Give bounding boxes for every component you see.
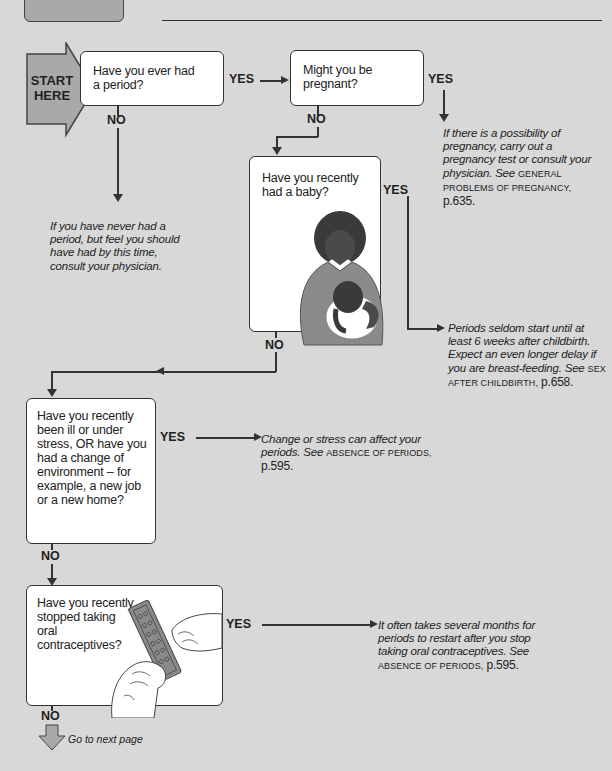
page-reference[interactable]: p.635. — [443, 194, 475, 208]
go-to-next-page-link[interactable]: Go to next page — [68, 733, 143, 745]
question-box-might-be-pregnant: Might you be pregnant? — [290, 50, 424, 106]
question-box-illness-stress: Have you recently been ill or under stre… — [26, 398, 156, 544]
question-text: Have you recently been ill or under stre… — [37, 409, 149, 507]
see-label: See — [303, 446, 323, 458]
q1-no-label: NO — [107, 113, 126, 127]
connector — [260, 80, 282, 82]
q4-no-label: NO — [41, 549, 60, 563]
question-text: Have you recently had a baby? — [262, 171, 362, 199]
cross-reference-link[interactable]: ABSENCE OF PERIODS, — [326, 448, 431, 458]
pill-pack-hands-illustration-icon — [110, 600, 225, 718]
q3-yes-label: YES — [383, 183, 408, 197]
connector — [262, 624, 372, 626]
connector — [443, 90, 445, 116]
start-label-line1: START — [30, 73, 74, 88]
arrow-down-icon — [113, 194, 123, 202]
answer-text: If you have never had a period, but feel… — [50, 220, 180, 272]
answer-never-had-period: If you have never had a period, but feel… — [50, 220, 180, 273]
connector — [276, 136, 318, 138]
see-label: See — [565, 362, 585, 374]
header-rule — [162, 20, 602, 21]
next-page-arrow-icon[interactable] — [38, 724, 66, 752]
connector — [117, 128, 119, 196]
arrow-right-icon — [370, 620, 378, 628]
start-label-line2: HERE — [30, 88, 74, 103]
q2-yes-label: YES — [428, 72, 453, 86]
question-text: Might you be pregnant? — [303, 63, 403, 91]
connector — [51, 371, 53, 390]
arrow-down-icon — [272, 147, 282, 155]
q4-yes-label: YES — [160, 430, 185, 444]
section-tab — [24, 0, 124, 22]
see-label: See — [509, 645, 529, 657]
start-here-label: START HERE — [30, 73, 74, 103]
mother-baby-illustration-icon — [290, 205, 390, 350]
question-box-ever-had-period: Have you ever had a period? — [80, 51, 224, 106]
q2-no-label: NO — [307, 112, 326, 126]
question-text: Have you ever had a period? — [93, 64, 203, 92]
answer-possibility-pregnancy: If there is a possibility of pregnancy, … — [443, 127, 603, 208]
connector — [407, 196, 409, 328]
page-reference[interactable]: p.595. — [486, 658, 518, 672]
arrow-right-icon — [437, 324, 445, 332]
cross-reference-link[interactable]: ABSENCE OF PERIODS, — [378, 661, 483, 671]
arrow-down-icon — [47, 389, 57, 397]
arrow-down-icon — [439, 114, 449, 122]
see-label: See — [495, 167, 515, 179]
page-reference[interactable]: p.658. — [541, 375, 573, 389]
connector — [407, 328, 439, 330]
connector — [196, 437, 256, 439]
q3-no-label: NO — [265, 338, 284, 352]
arrow-right-icon — [281, 76, 289, 84]
page-reference[interactable]: p.595. — [261, 459, 293, 473]
q1-yes-label: YES — [229, 72, 254, 86]
answer-oral-contraceptives: It often takes several months for period… — [378, 619, 558, 673]
connector — [275, 352, 277, 372]
q5-no-label: NO — [41, 709, 60, 723]
answer-change-or-stress: Change or stress can affect your periods… — [261, 433, 441, 474]
answer-periods-after-childbirth: Periods seldom start until at least 6 we… — [448, 322, 610, 390]
q5-yes-label: YES — [226, 617, 251, 631]
arrow-left-icon — [156, 367, 164, 375]
